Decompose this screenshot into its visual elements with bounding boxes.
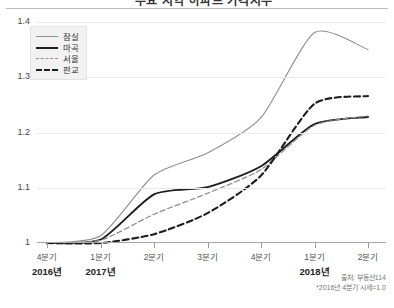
x-axis-tick bbox=[368, 243, 369, 248]
legend-item-마곡[interactable]: 마곡 bbox=[36, 42, 79, 53]
series-line-서울 bbox=[47, 116, 368, 243]
gridline bbox=[37, 22, 386, 23]
x-axis-tick-label: 2분기 bbox=[127, 250, 181, 262]
chart-legend: 잠실마곡서울판교 bbox=[30, 26, 87, 80]
x-axis-tick-label: 4분기 bbox=[20, 250, 74, 262]
legend-item-label: 판교 bbox=[63, 65, 79, 75]
x-axis-tick-label: 1분기 bbox=[74, 250, 128, 262]
x-axis-line bbox=[37, 242, 386, 243]
series-line-마곡 bbox=[47, 117, 368, 243]
gridline bbox=[37, 77, 386, 78]
legend-swatch-icon bbox=[36, 54, 58, 64]
y-axis-tick-label: 1.3 bbox=[2, 72, 30, 81]
y-axis-tick-label: 1 bbox=[2, 238, 30, 247]
x-axis-tick bbox=[101, 243, 102, 248]
y-axis-tick-label: 1.4 bbox=[2, 17, 30, 26]
baseline-note: *2016년 4분기 시세=1.0 bbox=[316, 282, 386, 292]
x-axis-tick bbox=[208, 243, 209, 248]
legend-swatch-icon bbox=[36, 65, 58, 75]
legend-swatch-icon bbox=[36, 43, 58, 53]
chart-title-strip: 주요 지역 아파트 가격지수 bbox=[0, 0, 394, 7]
legend-item-잠실[interactable]: 잠실 bbox=[36, 31, 79, 42]
x-axis-tick bbox=[315, 243, 316, 248]
legend-swatch-icon bbox=[36, 32, 58, 42]
page-title: 주요 지역 아파트 가격지수 bbox=[135, 0, 273, 7]
x-axis-year-label: 2018년 bbox=[280, 264, 350, 278]
title-divider bbox=[6, 8, 388, 9]
x-axis-tick bbox=[261, 243, 262, 248]
legend-item-label: 서울 bbox=[63, 54, 79, 64]
gridline bbox=[37, 188, 386, 189]
legend-item-label: 마곡 bbox=[63, 43, 79, 53]
legend-item-서울[interactable]: 서울 bbox=[36, 53, 79, 64]
series-line-판교 bbox=[47, 96, 368, 243]
plot-area bbox=[37, 22, 386, 243]
x-axis-tick-label: 1분기 bbox=[288, 250, 342, 262]
x-axis-year-label: 2017년 bbox=[66, 264, 136, 278]
y-axis-tick-label: 1.1 bbox=[2, 183, 30, 192]
series-line-잠실 bbox=[47, 31, 368, 243]
x-axis-tick bbox=[47, 243, 48, 248]
legend-item-label: 잠실 bbox=[63, 32, 79, 42]
y-axis-tick-label: 1.2 bbox=[2, 128, 30, 137]
legend-item-판교[interactable]: 판교 bbox=[36, 64, 79, 75]
gridline bbox=[37, 133, 386, 134]
x-axis-tick-label: 2분기 bbox=[341, 250, 394, 262]
chart-screenshot: 주요 지역 아파트 가격지수 1.41.31.21.11 4분기1분기2분기3분… bbox=[0, 0, 394, 308]
x-axis-tick-label: 3분기 bbox=[181, 250, 235, 262]
source-note: 출처: 부동산114 bbox=[341, 272, 386, 282]
x-axis-tick bbox=[154, 243, 155, 248]
x-axis-tick-label: 4분기 bbox=[234, 250, 288, 262]
